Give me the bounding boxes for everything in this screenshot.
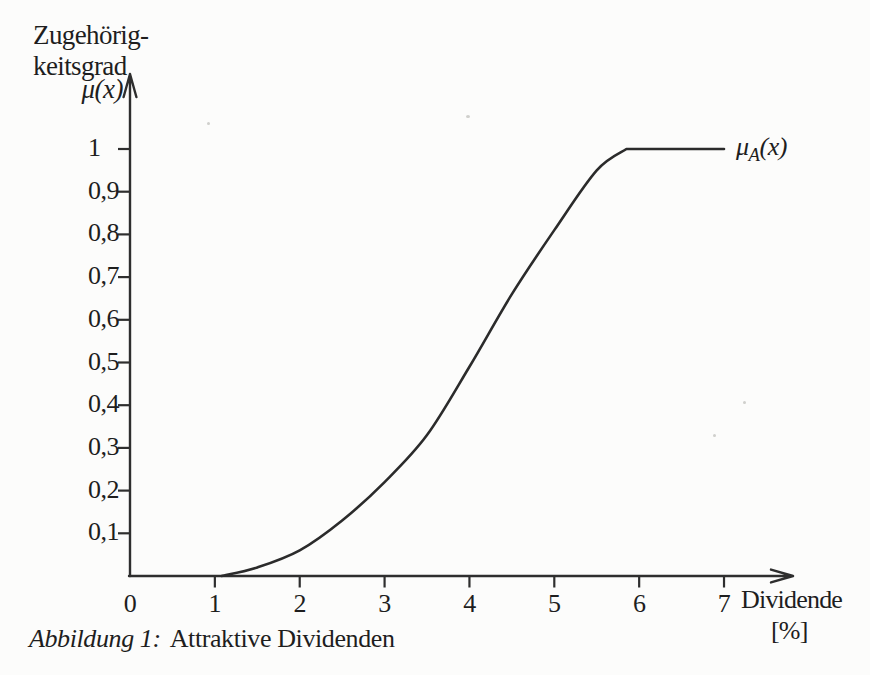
y-tick-label: 1 (88, 133, 101, 163)
curve-label: μA(x) (736, 132, 787, 166)
caption-number: Abbildung 1: (29, 624, 161, 653)
x-axis-title-unit-symbol: [%] (741, 615, 842, 646)
y-tick-label: 0,7 (88, 261, 119, 291)
scan-speck (466, 115, 470, 118)
x-tick-label: 5 (548, 589, 561, 619)
scan-speck (743, 401, 746, 404)
y-tick-label: 0,5 (88, 347, 119, 377)
y-tick-label: 0,9 (88, 176, 119, 206)
x-tick-label: 4 (463, 589, 476, 619)
y-tick-label: 0,4 (88, 389, 119, 419)
y-tick-label: 0,8 (88, 218, 119, 248)
x-tick-label: 7 (718, 589, 731, 619)
scan-speck (207, 122, 210, 125)
x-axis-line (129, 570, 793, 583)
curve-label-argument: (x) (760, 132, 787, 161)
x-tick-label: 6 (633, 589, 646, 619)
y-tick-label: 0,3 (88, 432, 119, 462)
chart-canvas (0, 0, 870, 675)
y-tick-label: 0,2 (88, 475, 119, 505)
x-tick-label: 1 (209, 589, 222, 619)
y-tick-label: 0,6 (88, 304, 119, 334)
x-axis-title: Dividende [%] (741, 584, 842, 646)
scan-speck (713, 434, 716, 437)
x-tick-label: 2 (293, 589, 306, 619)
curve-label-mu: μ (736, 132, 749, 161)
curve-label-subscript: A (749, 144, 760, 165)
x-axis-title-unit-name: Dividende (741, 584, 842, 615)
scanned-figure-page: Zugehörig- keitsgrad μ(x) 0,10,20,30,40,… (0, 0, 870, 675)
y-tick-label: 0,1 (88, 517, 119, 547)
caption-title: Attraktive Dividenden (170, 624, 395, 653)
x-tick-label: 0 (124, 589, 137, 619)
membership-curve (222, 149, 724, 576)
x-tick-label: 3 (378, 589, 391, 619)
figure-caption: Abbildung 1:Attraktive Dividenden (29, 624, 395, 654)
